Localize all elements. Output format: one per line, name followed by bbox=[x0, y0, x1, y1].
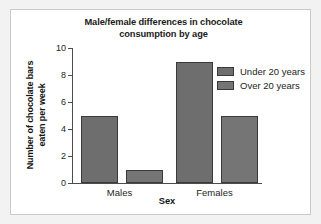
legend-swatch-icon bbox=[217, 81, 234, 90]
y-tick-label: 4 bbox=[61, 124, 66, 134]
chart-legend: Under 20 yearsOver 20 years bbox=[217, 65, 305, 93]
y-tick-label: 0 bbox=[61, 178, 66, 188]
bar-females-over-20-years bbox=[221, 116, 258, 184]
y-axis-title: Number of chocolate bars eaten per week bbox=[19, 40, 53, 190]
bar-males-over-20-years bbox=[126, 170, 163, 184]
y-tick-mark bbox=[68, 48, 72, 49]
y-tick-label: 10 bbox=[56, 43, 66, 53]
chart-title-line-1: Male/female differences in chocolate bbox=[84, 17, 242, 27]
legend-label: Over 20 years bbox=[240, 80, 300, 91]
legend-item-over-20-years: Over 20 years bbox=[217, 79, 305, 92]
legend-label: Under 20 years bbox=[240, 66, 305, 77]
y-tick-label: 2 bbox=[61, 151, 66, 161]
y-tick-label: 6 bbox=[61, 97, 66, 107]
bar-females-under-20-years bbox=[176, 62, 213, 184]
y-axis-line bbox=[72, 48, 73, 184]
figure-background: Male/female differences in chocolate con… bbox=[0, 0, 321, 224]
bar-males-under-20-years bbox=[81, 116, 118, 184]
chart-card: Male/female differences in chocolate con… bbox=[10, 9, 311, 215]
y-axis-title-line-2: eaten per week bbox=[36, 61, 48, 170]
y-tick-label: 8 bbox=[61, 70, 66, 80]
y-tick-mark bbox=[68, 75, 72, 76]
y-tick-mark bbox=[68, 183, 72, 184]
y-axis-title-line-1: Number of chocolate bars bbox=[25, 61, 35, 170]
x-axis-title: Sex bbox=[72, 196, 262, 206]
legend-swatch-icon bbox=[217, 67, 234, 76]
y-tick-mark bbox=[68, 129, 72, 130]
legend-item-under-20-years: Under 20 years bbox=[217, 65, 305, 78]
y-tick-mark bbox=[68, 156, 72, 157]
y-tick-mark bbox=[68, 102, 72, 103]
chart-title-line-2: consumption by age bbox=[41, 28, 286, 40]
x-axis-line bbox=[72, 183, 262, 184]
chart-title: Male/female differences in chocolate con… bbox=[41, 16, 286, 40]
